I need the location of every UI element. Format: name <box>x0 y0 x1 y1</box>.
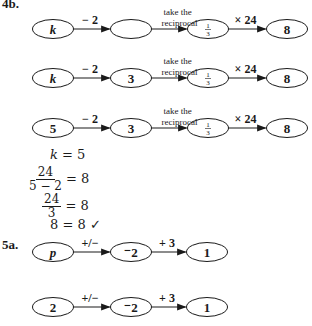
op-label: + 3 <box>159 291 175 305</box>
op-label: +/− <box>81 236 98 250</box>
node-value: 5 <box>50 121 57 136</box>
node-value: 2 <box>50 300 57 315</box>
node-numerator: 1 <box>206 121 210 129</box>
flow-row: p⁻21+/−+ 3 <box>33 236 228 262</box>
node-value: k <box>50 71 57 86</box>
equals-check: 8 = 8 ✓ <box>50 217 101 232</box>
op-label: × 24 <box>235 62 257 76</box>
node-value: 8 <box>284 121 291 136</box>
node-value: 3 <box>128 121 135 136</box>
flow-row: k3138− 2take thereciprocal× 24 <box>33 56 308 88</box>
variable-k: k <box>50 147 58 162</box>
op-label: × 24 <box>235 13 257 27</box>
numerator: 24 <box>36 166 55 180</box>
check-line-4: 8 = 8 ✓ <box>50 217 101 232</box>
node-numerator: 1 <box>206 71 210 79</box>
op-label: reciprocal <box>162 67 198 77</box>
fraction: 24 3 <box>42 193 61 220</box>
node-value: ⁻2 <box>124 300 138 315</box>
flow-row: 53138− 2take thereciprocal× 24 <box>33 106 308 138</box>
node-value: 3 <box>128 71 135 86</box>
op-label: take the <box>164 7 192 17</box>
op-label: take the <box>164 56 192 66</box>
equals-8: = 8 <box>66 171 89 186</box>
flow-row: 2⁻21+/−+ 3 <box>33 291 228 317</box>
node-value: 1 <box>204 245 211 260</box>
check-line-2: 24 5 − 2 = 8 <box>29 166 89 193</box>
node-ellipse <box>111 20 152 39</box>
node-value: ⁻2 <box>124 245 138 260</box>
op-label: − 2 <box>82 62 98 76</box>
op-label: take the <box>164 106 192 116</box>
node-denominator: 3 <box>206 129 210 137</box>
node-value: 8 <box>284 22 291 37</box>
fraction: 24 5 − 2 <box>29 166 62 193</box>
node-value: 8 <box>284 71 291 86</box>
flow-row: k138− 2take thereciprocal× 24 <box>33 7 308 39</box>
node-value: p <box>49 245 57 260</box>
node-denominator: 3 <box>206 30 210 38</box>
check-line-3: 24 3 = 8 <box>42 193 89 220</box>
node-numerator: 1 <box>206 22 210 30</box>
op-label: + 3 <box>159 236 175 250</box>
node-value: k <box>50 22 57 37</box>
op-label: reciprocal <box>162 117 198 127</box>
flow-diagrams: k138− 2take thereciprocal× 24k3138− 2tak… <box>0 0 312 326</box>
node-denominator: 3 <box>206 79 210 87</box>
equals-8: = 8 <box>65 198 88 213</box>
op-label: +/− <box>81 291 98 305</box>
op-label: × 24 <box>235 112 257 126</box>
equals-5: = 5 <box>62 147 85 162</box>
op-label: reciprocal <box>162 18 198 28</box>
op-label: − 2 <box>82 112 98 126</box>
op-label: − 2 <box>82 13 98 27</box>
check-line-1: k = 5 <box>50 147 85 162</box>
node-value: 1 <box>204 300 211 315</box>
numerator: 24 <box>42 193 61 207</box>
